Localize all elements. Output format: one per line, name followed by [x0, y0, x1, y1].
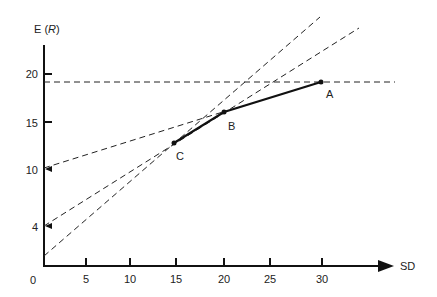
dashed-line-steep — [44, 17, 320, 256]
chart: 20 15 10 4 0 5 10 15 20 25 30 E (R) SD A… — [0, 0, 437, 297]
x-tick-label: 25 — [264, 273, 276, 285]
frontier-line — [174, 82, 321, 143]
dashed-line-from-10 — [44, 111, 226, 168]
point-b — [222, 110, 227, 115]
point-label-a: A — [326, 88, 334, 100]
y-tick-label: 10 — [26, 164, 38, 176]
x-ticks — [86, 258, 322, 266]
point-label-c: C — [176, 150, 184, 162]
y-axis-label: E (R) — [34, 23, 60, 35]
x-axis-label: SD — [400, 260, 415, 272]
x-tick-label: 10 — [124, 273, 136, 285]
y-tick-arrow-4-icon — [45, 223, 52, 229]
x-tick-label: 20 — [218, 273, 230, 285]
y-tick-label: 4 — [32, 221, 38, 233]
origin-label: 0 — [30, 274, 36, 286]
x-tick-label: 30 — [316, 273, 328, 285]
point-c — [172, 141, 177, 146]
point-a — [319, 80, 324, 85]
point-label-b: B — [228, 120, 235, 132]
y-ticks — [44, 74, 52, 122]
x-axis-arrow-icon — [378, 260, 394, 272]
y-tick-label: 20 — [26, 68, 38, 80]
x-tick-label: 15 — [170, 273, 182, 285]
y-tick-label: 15 — [26, 117, 38, 129]
x-tick-label: 5 — [83, 273, 89, 285]
